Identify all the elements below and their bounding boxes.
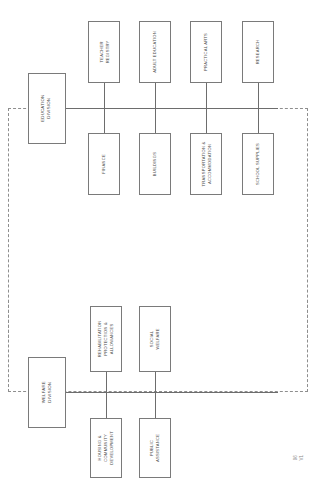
node-label: BUILDINGS <box>152 152 158 176</box>
node-public-assistance[interactable]: PUBLICASSISTANCE <box>139 418 171 478</box>
node-adult-education[interactable]: ADULT EDUCATION <box>139 21 171 83</box>
node-label: PUBLICASSISTANCE <box>149 434 161 462</box>
node-rehabilitation-protection-allowances[interactable]: REHABILITATIONPROTECTION &ALLOWANCES <box>90 306 122 372</box>
node-social-welfare[interactable]: SOCIALWELFARE <box>139 306 171 372</box>
node-label: TEACHERREGISTRY <box>98 41 110 64</box>
connector-research <box>258 83 259 108</box>
node-label: WELFAREDIVISION <box>41 381 53 403</box>
node-buildings[interactable]: BUILDINGS <box>139 133 171 195</box>
connector-finance <box>104 108 105 133</box>
connector-adult-education <box>155 83 156 108</box>
node-teacher-registry[interactable]: TEACHERREGISTRY <box>88 21 120 83</box>
connector-rehabilitation-protection-allowances <box>106 372 107 392</box>
node-welfare-division[interactable]: WELFAREDIVISION <box>28 357 66 428</box>
education-spine <box>66 108 278 109</box>
node-label: SOCIALWELFARE <box>149 328 161 349</box>
connector-public-assistance <box>155 392 156 418</box>
connector-social-welfare <box>155 372 156 392</box>
node-label: ADULT EDUCATION <box>152 31 158 73</box>
node-finance[interactable]: FINANCE <box>88 133 120 195</box>
node-label: RESEARCH <box>255 40 261 65</box>
connector-housing-community-development <box>106 392 107 418</box>
connector-teacher-registry <box>104 83 105 108</box>
node-school-supplies[interactable]: SCHOOL SUPPLIES <box>242 133 274 195</box>
node-housing-community-development[interactable]: HOUSING &COMMUNITYDEVELOPMENT <box>90 418 122 478</box>
node-label: TRANSPORTATION &ACCOMMODATION <box>200 142 212 187</box>
welfare-spine <box>66 392 278 393</box>
node-practical-arts[interactable]: PRACTICAL ARTS <box>190 21 222 83</box>
node-label: SCHOOL SUPPLIES <box>255 143 261 185</box>
node-label: HOUSING &COMMUNITYDEVELOPMENT <box>97 431 115 465</box>
node-label: REHABILITATIONPROTECTION &ALLOWANCES <box>97 321 115 358</box>
connector-transportation-accommodation <box>206 108 207 133</box>
node-label: EDUCATIONDIVISION <box>41 95 53 122</box>
node-label: FINANCE <box>101 154 107 174</box>
connector-buildings <box>155 108 156 133</box>
node-research[interactable]: RESEARCH <box>242 21 274 83</box>
connector-school-supplies <box>258 108 259 133</box>
connector-practical-arts <box>206 83 207 108</box>
node-transportation-accommodation[interactable]: TRANSPORTATION &ACCOMMODATION <box>190 133 222 195</box>
node-label: PRACTICAL ARTS <box>203 33 209 71</box>
page-corner-mark: 96V1 <box>293 455 305 461</box>
node-education-division[interactable]: EDUCATIONDIVISION <box>28 73 66 144</box>
